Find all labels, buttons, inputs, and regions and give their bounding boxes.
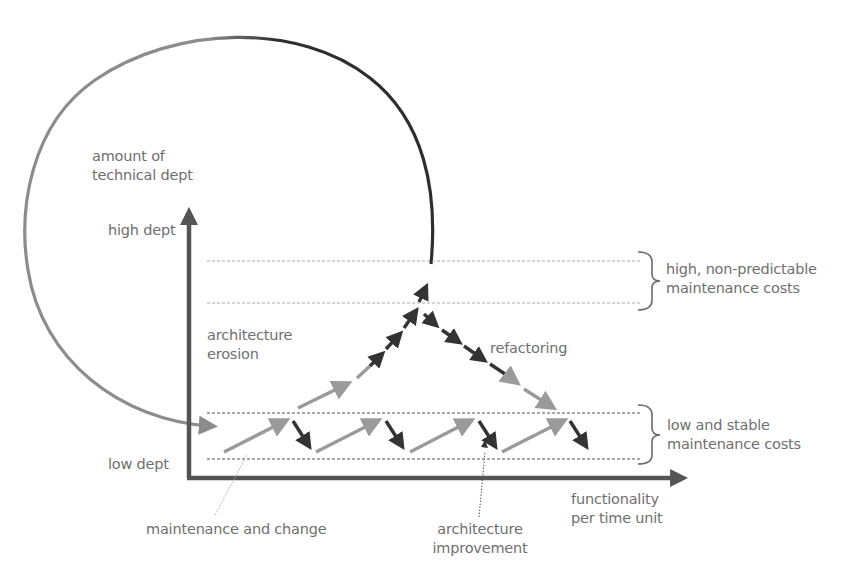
refactoring-arrows xyxy=(424,314,552,407)
y-axis-title-line1: amount of xyxy=(92,147,193,166)
maintenance-text: maintenance and change xyxy=(146,520,326,539)
architecture-improvement-label: architecture improvement xyxy=(425,520,535,558)
high-dept-label: high dept xyxy=(108,221,175,240)
maintenance-cycle-arrows xyxy=(224,421,586,452)
erosion-line1: architecture xyxy=(207,326,292,345)
erosion-line2: erosion xyxy=(207,345,292,364)
erosion-arrows xyxy=(298,287,426,408)
improvement-pointer xyxy=(479,452,485,517)
high-zone-bracket xyxy=(638,252,660,310)
low-costs-label: low and stable maintenance costs xyxy=(667,416,801,454)
low-costs-line1: low and stable xyxy=(667,416,801,435)
architecture-erosion-label: architecture erosion xyxy=(207,326,292,364)
x-axis-title-line2: per time unit xyxy=(571,509,663,528)
refactoring-label: refactoring xyxy=(490,339,567,358)
x-axis-title-line1: functionality xyxy=(571,490,663,509)
high-costs-label: high, non-predictable maintenance costs xyxy=(666,260,817,298)
low-zone-bracket xyxy=(638,405,660,464)
low-dept-label: low dept xyxy=(108,455,169,474)
maintenance-pointer xyxy=(215,455,247,515)
high-costs-line2: maintenance costs xyxy=(666,279,817,298)
high-costs-line1: high, non-predictable xyxy=(666,260,817,279)
improvement-pointer-head xyxy=(481,440,488,448)
high-dept-text: high dept xyxy=(108,221,175,240)
maintenance-and-change-label: maintenance and change xyxy=(146,520,326,539)
low-dept-text: low dept xyxy=(108,455,169,474)
feedback-loop-arc xyxy=(25,37,433,426)
refactoring-text: refactoring xyxy=(490,339,567,358)
x-axis-title: functionality per time unit xyxy=(571,490,663,528)
low-costs-line2: maintenance costs xyxy=(667,435,801,454)
y-axis-title-line2: technical dept xyxy=(92,166,193,185)
y-axis-title: amount of technical dept xyxy=(92,147,193,185)
improvement-line2: improvement xyxy=(425,539,535,558)
improvement-line1: architecture xyxy=(425,520,535,539)
brackets xyxy=(638,252,660,464)
